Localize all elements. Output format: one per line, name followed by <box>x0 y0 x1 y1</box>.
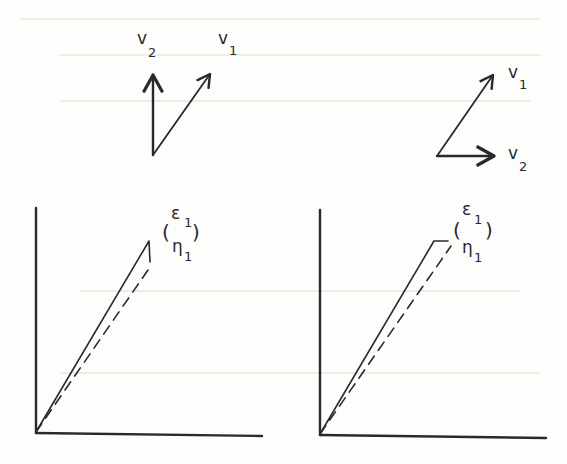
right-eta-symbol: η <box>462 239 473 256</box>
right-v2-subscript: 2 <box>519 160 527 173</box>
left-v1-subscript: 1 <box>229 44 237 57</box>
figure-canvas <box>0 0 567 464</box>
right-v2-symbol: v <box>508 145 518 162</box>
left-v1-arrow <box>153 74 210 155</box>
left-close-paren: ) <box>192 222 200 242</box>
right-dashed-trajectory <box>320 246 451 434</box>
left-solid-trajectory <box>36 241 150 432</box>
left-plot <box>36 208 262 436</box>
left-v1-symbol: v <box>218 30 228 47</box>
right-epsilon-symbol: ε <box>462 201 471 218</box>
right-close-paren: ) <box>485 220 493 240</box>
figure-page: v 2 v 1 v 1 v 2 ( ε 1 ) η 1 ε 1 ( ) η 1 <box>0 0 567 464</box>
right-plot <box>320 210 546 438</box>
right-eta-subscript: 1 <box>474 251 482 264</box>
right-open-paren: ( <box>453 220 461 240</box>
left-basis-vectors <box>153 74 210 155</box>
left-open-paren: ( <box>162 222 170 242</box>
left-dashed-trajectory <box>36 270 148 432</box>
right-v1-subscript: 1 <box>519 78 527 91</box>
left-eta-subscript: 1 <box>184 250 192 263</box>
right-basis-vectors <box>437 75 494 156</box>
right-x-axis <box>320 435 546 438</box>
right-v1-symbol: v <box>508 64 518 81</box>
left-v2-subscript: 2 <box>148 46 156 59</box>
right-v1-arrow <box>437 75 493 156</box>
left-eta-symbol: η <box>172 238 183 255</box>
left-v2-symbol: v <box>137 30 147 47</box>
right-epsilon-subscript: 1 <box>474 213 482 226</box>
left-epsilon-symbol: ε <box>171 205 180 222</box>
left-x-axis <box>36 433 262 436</box>
